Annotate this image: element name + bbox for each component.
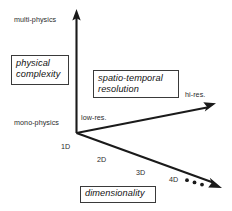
diagram-canvas: multi-physics mono-physics low-res. hi-r…: [0, 0, 232, 211]
upper-right-axis-low-label: low-res.: [81, 114, 107, 122]
ellipsis-dot-2: [193, 181, 197, 185]
dimensionality-tick-2d: 2D: [97, 156, 106, 164]
axis-title-physical-complexity: physical complexity: [11, 55, 69, 85]
vertical-axis-high-label: multi-physics: [14, 16, 56, 24]
ellipsis-dot-3: [200, 183, 204, 187]
axis-title-dimensionality: dimensionality: [80, 186, 156, 203]
dimensionality-tick-1d: 1D: [61, 143, 70, 151]
ellipsis-dot-1: [185, 178, 189, 182]
dimensionality-tick-3d: 3D: [136, 169, 145, 177]
lower-right-axis-arrowhead: [208, 178, 222, 188]
axis-title-spatio-temporal-resolution: spatio-temporal resolution: [93, 70, 179, 98]
axes-svg: [0, 0, 232, 211]
vertical-axis-group: [72, 9, 80, 133]
dimensionality-tick-4d: 4D: [169, 176, 178, 184]
vertical-axis-low-label: mono-physics: [14, 119, 59, 127]
upper-right-axis-high-label: hi-res.: [185, 91, 205, 99]
